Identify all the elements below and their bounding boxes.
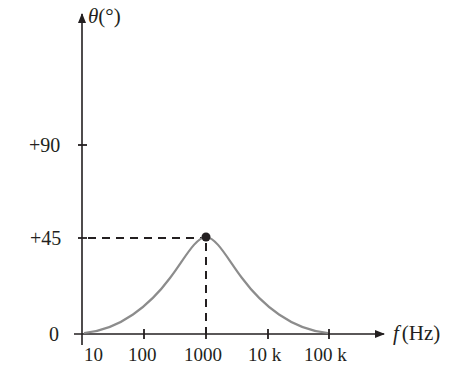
x-axis-unit: (Hz) xyxy=(402,321,440,345)
y-tick-label-90: +90 xyxy=(29,135,60,155)
y-tick-label-45: +45 xyxy=(30,228,61,248)
x-tick-label-1000: 1000 xyxy=(184,345,222,365)
x-tick-label-10: 10 xyxy=(84,345,103,365)
x-axis-variable: f xyxy=(393,321,399,345)
x-axis-label: f(Hz) xyxy=(393,323,440,343)
y-axis-variable: θ xyxy=(88,4,98,28)
y-axis-label: θ(°) xyxy=(88,6,121,26)
peak-point xyxy=(202,233,211,242)
y-axis-unit: (°) xyxy=(98,4,120,28)
y-tick-label-0: 0 xyxy=(49,324,59,344)
x-tick-label-100: 100 xyxy=(128,345,157,365)
x-tick-label-100k: 100 k xyxy=(304,345,347,365)
x-tick-label-10k: 10 k xyxy=(248,345,281,365)
